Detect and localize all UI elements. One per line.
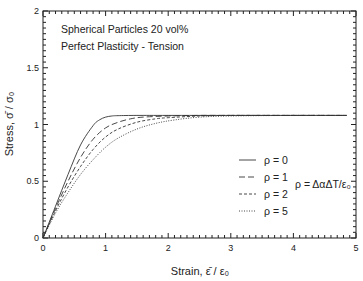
y-axis-label: Stress, σ̄ / σ₀ <box>3 92 15 157</box>
legend-label: ρ = 1 <box>264 171 288 183</box>
series-line-rho-2 <box>43 115 347 238</box>
legend-label: ρ = 5 <box>264 205 288 217</box>
y-tick-label: 0 <box>34 233 39 243</box>
y-tick-label: 0.5 <box>26 176 39 186</box>
y-tick-label: 2 <box>34 6 39 16</box>
x-tick-label: 1 <box>103 243 108 253</box>
series-line-rho-5 <box>43 115 347 238</box>
series-line-rho-1 <box>43 115 347 238</box>
legend: ρ = 0ρ = 1ρ = 2ρ = 5 <box>239 154 288 217</box>
legend-label: ρ = 0 <box>264 154 288 166</box>
x-tick-label: 0 <box>40 243 45 253</box>
x-tick-label: 5 <box>353 243 358 253</box>
series-lines <box>43 115 347 238</box>
series-line-rho-0 <box>43 115 347 238</box>
legend-label: ρ = 2 <box>264 188 288 200</box>
x-tick-label: 4 <box>291 243 296 253</box>
annotation-line-2: Perfect Plasticity - Tension <box>61 40 184 52</box>
stress-strain-chart: 01234500.511.52 Spherical Particles 20 v… <box>0 0 363 281</box>
x-tick-label: 2 <box>166 243 171 253</box>
annotation-line-1: Spherical Particles 20 vol% <box>61 23 188 35</box>
x-axis-label: Strain, ε̄ / ε₀ <box>171 265 229 277</box>
y-tick-label: 1.5 <box>26 63 39 73</box>
y-tick-label: 1 <box>34 120 39 130</box>
x-tick-label: 3 <box>228 243 233 253</box>
legend-note: ρ = ΔαΔT/ε₀ <box>295 178 351 190</box>
